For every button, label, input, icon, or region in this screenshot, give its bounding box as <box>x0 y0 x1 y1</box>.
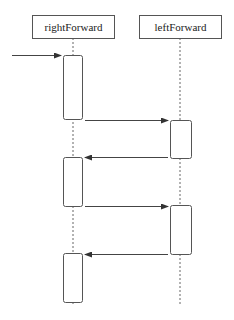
activation-bar-leftForward-1 <box>171 121 192 159</box>
activation-bar-rightForward-2 <box>64 158 83 207</box>
activation-bar-rightForward-3 <box>64 254 83 303</box>
participant-label: rightForward <box>44 21 103 33</box>
participant-rightForward[interactable]: rightForward <box>33 16 115 39</box>
activation-bar-leftForward-2 <box>171 206 192 255</box>
participant-leftForward[interactable]: leftForward <box>140 16 222 39</box>
activation-bar-rightForward-1 <box>64 56 83 120</box>
sequence-diagram: rightForward leftForward <box>0 0 234 320</box>
participant-label: leftForward <box>155 21 207 33</box>
